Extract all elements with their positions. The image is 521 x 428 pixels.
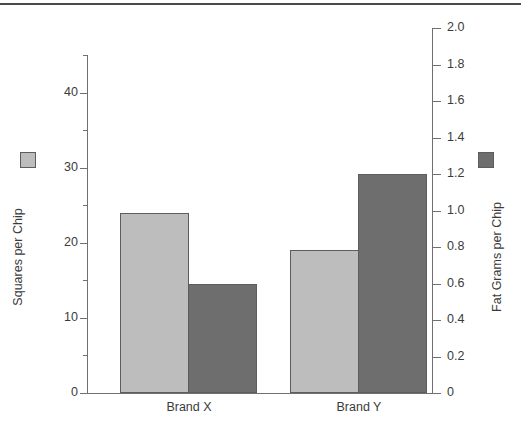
x-axis-category-label: Brand Y bbox=[309, 400, 409, 414]
legend-swatch-squares-per-chip bbox=[20, 152, 36, 168]
left-axis-minor-tick bbox=[83, 355, 88, 356]
left-axis-major-tick bbox=[80, 393, 88, 394]
left-axis-major-tick bbox=[80, 93, 88, 94]
left-axis-tick-label: 20 bbox=[40, 236, 78, 249]
right-axis-tick-label: 1.2 bbox=[447, 167, 487, 180]
left-axis-spine bbox=[87, 55, 88, 394]
top-divider-rule bbox=[0, 3, 521, 5]
right-axis-tick-label: 0.4 bbox=[447, 313, 487, 326]
right-axis-major-tick bbox=[432, 101, 441, 102]
right-axis-major-tick bbox=[432, 393, 441, 394]
right-axis-tick-label: 0.2 bbox=[447, 350, 487, 363]
left-axis-minor-tick bbox=[83, 55, 88, 56]
right-axis-tick-label: 0.6 bbox=[447, 277, 487, 290]
left-axis-major-tick bbox=[80, 243, 88, 244]
right-axis-major-tick bbox=[432, 247, 441, 248]
right-axis-tick-label: 2.0 bbox=[447, 21, 487, 34]
right-axis-major-tick bbox=[432, 174, 441, 175]
bar-squares-per-chip bbox=[290, 250, 359, 393]
right-axis-major-tick bbox=[432, 28, 441, 29]
right-axis-title: Fat Grams per Chip bbox=[490, 177, 504, 337]
right-axis-tick-label: 0 bbox=[447, 386, 487, 399]
x-axis-baseline bbox=[87, 393, 433, 394]
right-axis-tick-label: 1.0 bbox=[447, 204, 487, 217]
left-axis-tick-label: 10 bbox=[40, 311, 78, 324]
left-axis-tick-label: 40 bbox=[40, 86, 78, 99]
right-axis-major-tick bbox=[432, 284, 441, 285]
left-axis-minor-tick bbox=[83, 205, 88, 206]
bar-fat-grams-per-chip bbox=[188, 284, 257, 394]
left-axis-major-tick bbox=[80, 318, 88, 319]
left-axis-minor-tick bbox=[83, 130, 88, 131]
right-axis-major-tick bbox=[432, 320, 441, 321]
bar-squares-per-chip bbox=[120, 213, 189, 393]
right-axis-tick-label: 1.4 bbox=[447, 131, 487, 144]
bar-chart-figure: 01020304000.20.40.60.81.01.21.41.61.82.0… bbox=[0, 0, 521, 428]
right-axis-major-tick bbox=[432, 138, 441, 139]
right-axis-major-tick bbox=[432, 357, 441, 358]
right-axis-major-tick bbox=[432, 211, 441, 212]
right-axis-tick-label: 0.8 bbox=[447, 240, 487, 253]
right-axis-major-tick bbox=[432, 65, 441, 66]
left-axis-major-tick bbox=[80, 168, 88, 169]
left-axis-title: Squares per Chip bbox=[11, 177, 25, 337]
x-axis-category-label: Brand X bbox=[139, 400, 239, 414]
left-axis-minor-tick bbox=[83, 280, 88, 281]
left-axis-tick-label: 30 bbox=[40, 161, 78, 174]
right-axis-tick-label: 1.8 bbox=[447, 58, 487, 71]
right-axis-tick-label: 1.6 bbox=[447, 94, 487, 107]
bar-fat-grams-per-chip bbox=[358, 174, 427, 393]
legend-swatch-fat-grams-per-chip bbox=[478, 152, 494, 168]
left-axis-tick-label: 0 bbox=[40, 386, 78, 399]
